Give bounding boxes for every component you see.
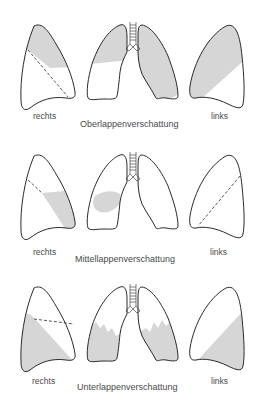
row-upper-lobe — [0, 0, 260, 110]
label-left-side: links — [211, 376, 228, 386]
row-title-upper-lobe: Oberlappenverschattung — [80, 119, 179, 129]
frontal-lungs — [80, 284, 190, 372]
label-right-side: rechts — [33, 111, 56, 121]
frontal-lungs — [80, 0, 190, 100]
lateral-left-lung — [190, 287, 260, 382]
frontal-lungs — [87, 152, 178, 230]
row-title-lower-lobe: Unterlappenverschattung — [77, 382, 178, 392]
label-left-side: links — [211, 111, 228, 121]
lateral-right-lung — [21, 155, 76, 240]
label-right-side: rechts — [32, 376, 55, 386]
label-right-side: rechts — [33, 247, 56, 257]
lateral-right-lung — [0, 0, 100, 110]
lung-opacity-diagram — [0, 0, 260, 400]
lateral-right-lung — [0, 287, 75, 382]
lateral-left-lung — [180, 0, 260, 108]
lateral-left-lung — [190, 155, 244, 237]
row-middle-lobe — [21, 152, 244, 240]
label-left-side: links — [210, 247, 227, 257]
row-lower-lobe — [0, 284, 260, 382]
row-title-middle-lobe: Mittellappenverschattung — [75, 254, 175, 264]
